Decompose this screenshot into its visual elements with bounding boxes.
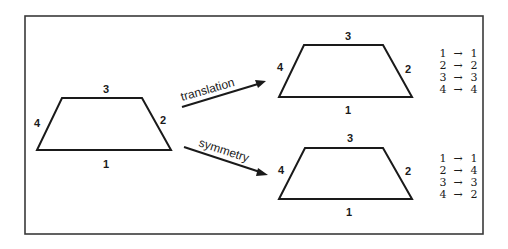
translated-edge-label-bottom: 1: [345, 104, 351, 116]
symmetry-arrow: symmetry: [184, 136, 268, 176]
translated-edge-label-top: 3: [345, 30, 351, 42]
source-trapezoid: 3 2 1 4: [34, 83, 171, 170]
translation-arrowhead-icon: [255, 80, 266, 88]
translation-mapping-table: 1 → 1 2 → 2 3 → 3 4 → 4: [440, 47, 478, 96]
source-edge-label-bottom: 1: [103, 158, 109, 170]
symmetric-edge-label-bottom: 1: [346, 206, 352, 218]
mapping-to: 2: [471, 188, 478, 201]
source-trapezoid-outline: [37, 98, 171, 150]
mapping-row: 4 → 4: [440, 83, 478, 96]
source-edge-label-top: 3: [103, 83, 109, 95]
mapping-row: 4 → 2: [440, 188, 478, 201]
symmetric-trapezoid-outline: [279, 148, 412, 199]
symmetric-edge-label-right: 2: [405, 165, 411, 177]
source-edge-label-right: 2: [160, 114, 166, 126]
mapping-arrow-icon: →: [453, 83, 462, 96]
symmetry-mapping-table: 1 → 1 2 → 4 3 → 3 4 → 2: [440, 152, 478, 201]
mapping-arrow-icon: →: [453, 188, 462, 201]
translated-trapezoid: 3 2 1 4: [277, 30, 412, 116]
translated-edge-label-right: 2: [405, 63, 411, 75]
mapping-to: 4: [471, 83, 478, 96]
translation-arrow: translation: [179, 75, 266, 107]
mapping-from: 4: [440, 83, 447, 96]
translated-trapezoid-outline: [279, 45, 412, 97]
symmetric-edge-label-top: 3: [347, 132, 353, 144]
symmetry-arrowhead-icon: [256, 168, 268, 176]
transformation-diagram: 3 2 1 4 translation symmetry 3 2 1 4 1 →…: [0, 0, 508, 249]
figure-frame: [25, 16, 483, 234]
mapping-from: 4: [440, 188, 447, 201]
symmetric-edge-label-left: 4: [278, 164, 285, 176]
source-edge-label-left: 4: [34, 117, 41, 129]
translated-edge-label-left: 4: [277, 61, 284, 73]
symmetric-trapezoid: 3 2 1 4: [278, 132, 412, 218]
